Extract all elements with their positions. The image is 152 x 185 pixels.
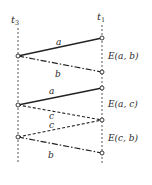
segment-c-2 bbox=[18, 120, 102, 137]
segment-label-a-1: a bbox=[56, 37, 61, 47]
node-t1-4 bbox=[100, 118, 104, 122]
event-label-ab: E(a, b) bbox=[107, 51, 139, 61]
segment-label-b-2: b bbox=[48, 150, 54, 160]
timeline-label-t3: t3 bbox=[11, 14, 19, 27]
segment-c-1 bbox=[18, 105, 102, 120]
segment-label-c-2: c bbox=[49, 120, 54, 130]
event-label-cb: E(c, b) bbox=[107, 133, 139, 143]
node-t1-2 bbox=[100, 70, 104, 74]
segment-label-b-1: b bbox=[55, 69, 61, 79]
node-t3-3 bbox=[16, 135, 20, 139]
sequence-diagram: t3 t1 a b a c c b E(a, b) E(a, c) E(c, b… bbox=[0, 0, 152, 185]
segment-b-2 bbox=[18, 137, 102, 153]
node-t1-5 bbox=[100, 151, 104, 155]
node-t3-2 bbox=[16, 103, 20, 107]
node-t1-1 bbox=[100, 36, 104, 40]
node-t3-1 bbox=[16, 54, 20, 58]
segment-a-2 bbox=[18, 88, 102, 105]
segment-label-a-2: a bbox=[49, 86, 54, 96]
node-t1-3 bbox=[100, 86, 104, 90]
event-label-ac: E(a, c) bbox=[107, 99, 138, 109]
timeline-label-t1: t1 bbox=[97, 11, 105, 24]
